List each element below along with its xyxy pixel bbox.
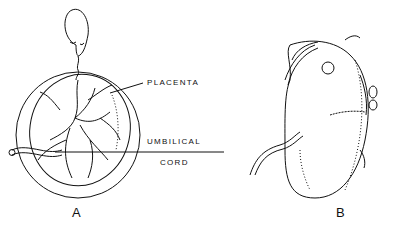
label-umbilical: UMBILICAL	[147, 137, 201, 146]
panel-label-a: A	[72, 205, 81, 220]
outer-sac	[16, 72, 140, 198]
panel-a-drawing	[9, 9, 141, 198]
chorion	[19, 65, 140, 195]
diagram-canvas	[0, 0, 409, 228]
panel-label-b: B	[336, 205, 345, 220]
panel-b-drawing	[250, 36, 377, 198]
label-cord: CORD	[160, 158, 189, 167]
chorion-exterior	[285, 41, 368, 198]
embryo	[65, 9, 88, 56]
label-placenta: PLACENTA	[147, 78, 199, 87]
